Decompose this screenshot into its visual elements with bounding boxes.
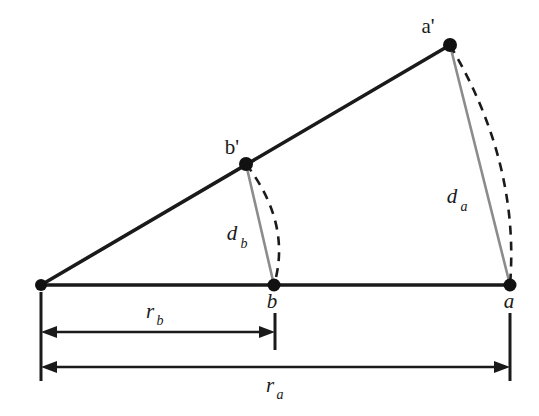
canvas-background — [0, 0, 539, 416]
label-r-a-main: r — [266, 373, 275, 397]
label-d-a-main: d — [447, 184, 458, 208]
point-a-prime-dot — [443, 38, 457, 52]
label-d-b-main: d — [227, 221, 238, 245]
label-r-a-sub: a — [277, 387, 284, 402]
label-r-b-main: r — [146, 299, 155, 323]
label-a: a — [504, 289, 515, 313]
label-d-a-sub: a — [461, 199, 468, 214]
radial-displacement-diagram: a' b' b a d a d b r b r a — [0, 0, 539, 416]
figure-root: a' b' b a d a d b r b r a — [0, 0, 539, 416]
label-r-b-sub: b — [157, 313, 164, 328]
origin-vertex-dot — [35, 279, 47, 291]
label-b: b — [267, 289, 278, 313]
label-a-prime: a' — [421, 14, 434, 38]
point-b-prime-dot — [239, 157, 253, 171]
label-b-prime: b' — [225, 135, 239, 159]
label-d-b-sub: b — [241, 236, 248, 251]
